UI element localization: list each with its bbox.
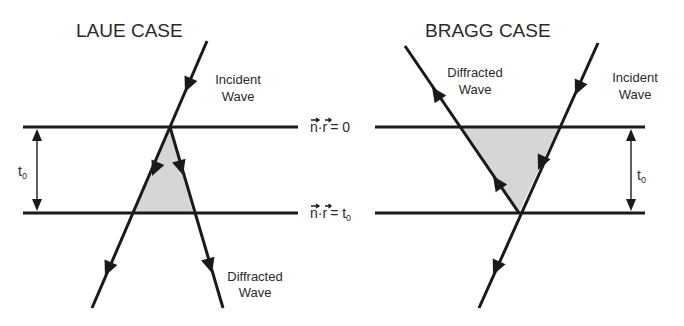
laue-thickness-down-arrow-icon [32,199,42,211]
laue-case-panel: t0 LAUE CASE Incident Wave Diffracted Wa… [18,20,298,308]
bragg-title: BRAGG CASE [425,20,551,41]
bragg-diffracted-label-line1: Diffracted [447,65,502,80]
laue-diffracted-label-line1: Diffracted [227,269,282,284]
laue-title: LAUE CASE [76,20,183,41]
laue-thickness-label: t0 [18,163,27,181]
surface-equations: n·r= 0 n·r= t0 [310,118,351,223]
diffraction-geometry-diagram: t0 LAUE CASE Incident Wave Diffracted Wa… [0,0,684,326]
bragg-thickness-up-arrow-icon [626,129,636,141]
laue-transmitted-exit-arrow-icon [99,259,118,278]
bragg-thickness-down-arrow-icon [626,199,636,211]
bragg-diffracted-label-line2: Wave [459,82,492,97]
bragg-transmitted-exit-arrow-icon [487,258,506,277]
laue-incident-label-line2: Wave [222,89,255,104]
bragg-incident-arrow-icon [569,78,588,97]
bragg-case-panel: t0 BRAGG CASE Diffracted Wave Incident W… [375,20,658,308]
bragg-incident-label-line2: Wave [619,87,652,102]
bragg-incident-label-line1: Incident [612,70,658,85]
laue-incident-label-line1: Incident [215,72,261,87]
bragg-thickness-label: t0 [637,167,646,185]
laue-diffracted-beam [170,127,223,308]
laue-incident-arrow-icon [179,75,198,94]
laue-diffracted-exit-arrow-icon [201,257,219,275]
laue-diffracted-label-line2: Wave [239,285,272,300]
laue-thickness-up-arrow-icon [32,129,42,141]
